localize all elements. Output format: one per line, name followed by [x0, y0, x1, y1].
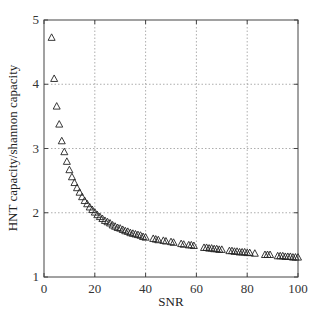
- triangle-marker-icon: [66, 166, 73, 173]
- y-tick-label: 5: [33, 12, 40, 27]
- x-tick-label: 40: [139, 281, 152, 296]
- triangle-marker-icon: [53, 103, 60, 110]
- chart: 02040608010012345 SNR HNT capacity/shann…: [0, 0, 322, 322]
- triangle-marker-icon: [63, 158, 70, 165]
- x-tick-label: 20: [88, 281, 101, 296]
- triangle-marker-icon: [58, 137, 65, 144]
- triangle-marker-icon: [51, 75, 58, 82]
- y-tick-label: 4: [33, 76, 40, 91]
- triangle-marker-icon: [48, 34, 55, 41]
- y-tick-label: 2: [33, 205, 40, 220]
- triangle-marker-icon: [56, 121, 63, 128]
- y-tick-label: 3: [33, 141, 40, 156]
- triangle-marker-icon: [61, 148, 68, 155]
- x-tick-label: 80: [241, 281, 254, 296]
- y-tick-label: 1: [33, 269, 40, 284]
- data-points: [48, 34, 301, 260]
- x-axis-label: SNR: [158, 294, 184, 309]
- x-tick-label: 60: [190, 281, 203, 296]
- y-axis-label: HNT capacity/shannon capacity: [5, 64, 20, 231]
- x-tick-label: 0: [41, 281, 48, 296]
- x-tick-label: 100: [288, 281, 308, 296]
